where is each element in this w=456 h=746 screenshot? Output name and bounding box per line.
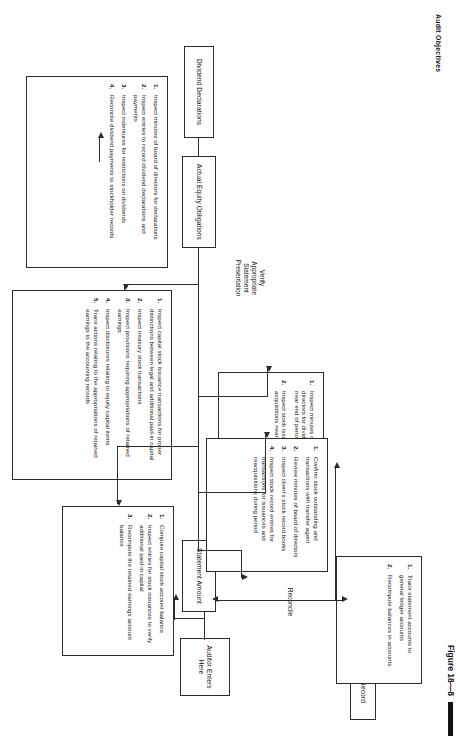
list-item: 2.Inspect entries for stock issuances to… — [138, 514, 153, 647]
procedure-list-existence: 1.Confirm stock outstanding and transact… — [252, 446, 320, 563]
arrowhead-statement-amount — [242, 574, 248, 580]
procedure-box-reconcile: 1.Trace statement accounts to general le… — [336, 556, 422, 684]
connector-valuation-stem — [117, 446, 199, 447]
list-item: 1.Inspect minutes of board of directors … — [152, 84, 160, 259]
list-item: 3.Inspect client's stock record books — [280, 446, 288, 563]
terminal-dividend-declarations: Dividend Declarations — [184, 46, 214, 138]
connector-existence-stem — [198, 492, 266, 493]
list-item: 4.Inspect disclosures relating to equity… — [104, 298, 112, 471]
procedure-list-valuation: 1.Compute capital stock account balance … — [118, 514, 166, 647]
list-item: 1.Compute capital stock account balance — [158, 514, 166, 647]
terminal-actual-equity-obligations-label: Actual Equity Obligations — [183, 157, 215, 247]
arrowhead-dividend-procedures — [98, 132, 104, 138]
arrowhead-cutoff — [266, 366, 272, 372]
connector-presentation-stem — [125, 284, 199, 285]
connector-dividend-to-procedures — [99, 138, 100, 162]
connector-reconcile-to-procedures — [335, 468, 336, 600]
arrowhead-reconcile-down — [212, 596, 218, 602]
list-item: 4.Reconcile dividend payments to stockho… — [108, 84, 116, 259]
connector-cutoff-stem — [198, 396, 268, 397]
list-item: 3.Recompute the retained earnings accoun… — [118, 514, 133, 647]
list-item: 1.Confirm stock outstanding and transact… — [305, 446, 320, 563]
arrowhead-auditor-to-statement — [173, 594, 179, 600]
terminal-actual-equity-obligations: Actual Equity Obligations — [182, 156, 216, 248]
arrowhead-existence — [264, 432, 270, 438]
connector-auditor-to-statement — [174, 600, 175, 620]
figure-caption-text: Figure 18—8 — [446, 645, 456, 696]
connector-equity-to-dividend — [198, 138, 199, 156]
arrowhead-reconcile-up — [342, 596, 348, 602]
procedure-list-dividend: 1.Inspect minutes of board of directors … — [108, 84, 160, 259]
label-reconcile: Reconcile — [286, 572, 294, 632]
spine-main-line — [198, 248, 199, 550]
connector-reconcile-double — [218, 600, 342, 601]
list-item: 2.Inspect entries to record dividend dec… — [132, 84, 147, 259]
list-item: 1.Trace statement accounts to general le… — [399, 564, 414, 675]
caption-rule — [448, 702, 453, 736]
arrowhead-presentation — [123, 284, 129, 290]
terminal-dividend-declarations-label: Dividend Declarations — [185, 47, 213, 137]
procedure-box-valuation: 1.Compute capital stock account balance … — [62, 506, 174, 656]
procedure-box-presentation: 1.Inspect capital stock issuance transac… — [12, 290, 172, 480]
list-item: 3.Inspect indentures for restrictions on… — [120, 84, 128, 259]
procedure-box-dividend: 1.Inspect minutes of board of directors … — [26, 76, 168, 268]
terminal-auditor-enters-here: Auditor Enters Here — [180, 638, 230, 696]
connector-auditor-lead — [204, 612, 205, 640]
page-title: Audit Objectives — [435, 14, 442, 72]
terminal-auditor-enters-here-label: Auditor Enters Here — [181, 639, 229, 695]
list-item: 2.Recompute balances in accounts — [386, 564, 394, 675]
connector-valuation-lead — [117, 446, 118, 504]
connector-statement-stem — [198, 550, 242, 551]
arrowhead-reconcile-procedures — [334, 462, 340, 468]
connector-existence-lead — [265, 432, 266, 492]
procedure-box-existence: 1.Confirm stock outstanding and transact… — [206, 438, 328, 572]
list-item: 2.Review minutes of board of directors — [292, 446, 300, 563]
connector-auditor-stem — [175, 618, 205, 619]
list-item: 5.Trace actions relating to the appropri… — [84, 298, 99, 471]
procedure-list-reconcile: 1.Trace statement accounts to general le… — [386, 564, 414, 675]
figure-caption: Figure 18—8 — [446, 645, 456, 736]
arrowhead-valuation — [116, 500, 122, 506]
spine-label-verify-presentation: Verify Appropriate Statement Presentatio… — [234, 236, 267, 320]
